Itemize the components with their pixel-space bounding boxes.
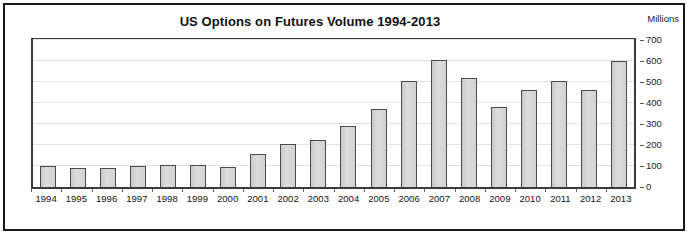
x-axis-tick-label: 2005 — [364, 193, 394, 213]
bar-2011 — [551, 81, 567, 187]
chart-title: US Options on Futures Volume 1994-2013 — [0, 14, 620, 29]
y-axis-tick — [640, 61, 644, 62]
bar-2008 — [461, 78, 477, 187]
y-axis-tick-label: 500 — [646, 77, 662, 87]
bar-slot — [394, 40, 424, 187]
x-axis-tick-label: 1996 — [92, 193, 122, 213]
bar-1995 — [70, 168, 86, 187]
bar-slot — [303, 40, 333, 187]
x-axis-tick-label: 2012 — [576, 193, 606, 213]
bar-slot — [424, 40, 454, 187]
x-axis-tick-label: 2013 — [606, 193, 636, 213]
x-axis-tick-label: 2006 — [394, 193, 424, 213]
x-axis-tick-label: 2004 — [334, 193, 364, 213]
bar-2000 — [220, 167, 236, 187]
bar-slot — [153, 40, 183, 187]
x-axis-tick-label: 2002 — [273, 193, 303, 213]
y-axis-unit-label: Millions — [647, 13, 679, 24]
bar-slot — [273, 40, 303, 187]
bar-slot — [484, 40, 514, 187]
x-axis-labels: 1994199519961997199819992000200120022003… — [31, 193, 636, 213]
y-axis-tick-label: 400 — [646, 98, 662, 108]
plot-area — [31, 38, 636, 189]
bar-2002 — [280, 144, 296, 187]
y-axis-tick — [640, 124, 644, 125]
bar-slot — [604, 40, 634, 187]
bar-slot — [213, 40, 243, 187]
bar-2007 — [431, 60, 447, 187]
bar-1999 — [190, 165, 206, 187]
x-axis-tick-label: 2008 — [455, 193, 485, 213]
y-axis-tick — [640, 166, 644, 167]
bar-slot — [33, 40, 63, 187]
y-axis-tick-label: 0 — [646, 182, 651, 192]
x-axis-tick-label: 2001 — [243, 193, 273, 213]
x-axis-tick-label: 2000 — [213, 193, 243, 213]
bar-2012 — [581, 90, 597, 187]
bar-slot — [123, 40, 153, 187]
bar-2006 — [401, 81, 417, 187]
y-axis-tick-label: 100 — [646, 161, 662, 171]
x-axis-tick-label: 2003 — [303, 193, 333, 213]
y-axis-tick — [640, 145, 644, 146]
bar-1996 — [100, 168, 116, 187]
y-axis: 0100200300400500600700 — [640, 31, 684, 197]
bar-slot — [514, 40, 544, 187]
figure-bottom-rule — [3, 229, 685, 231]
bar-1998 — [160, 165, 176, 187]
bar-slot — [574, 40, 604, 187]
bar-slot — [454, 40, 484, 187]
x-axis-tick-label: 2007 — [424, 193, 454, 213]
bar-2001 — [250, 154, 266, 187]
bar-2004 — [340, 126, 356, 187]
y-axis-tick — [640, 82, 644, 83]
bar-2005 — [371, 109, 387, 187]
y-axis-tick — [640, 187, 644, 188]
bar-2013 — [611, 61, 627, 187]
bar-slot — [93, 40, 123, 187]
x-axis-tick-label: 1999 — [182, 193, 212, 213]
x-axis-tick-label: 1998 — [152, 193, 182, 213]
y-axis-tick-label: 700 — [646, 35, 662, 45]
bar-slot — [243, 40, 273, 187]
bar-2009 — [491, 107, 507, 187]
bar-2003 — [310, 140, 326, 187]
x-axis-tick-label: 1997 — [122, 193, 152, 213]
bar-2010 — [521, 90, 537, 187]
bar-1997 — [130, 166, 146, 187]
x-axis-tick-label: 1995 — [61, 193, 91, 213]
x-axis-tick-label: 2009 — [485, 193, 515, 213]
bar-series — [33, 40, 634, 187]
y-axis-tick-label: 300 — [646, 119, 662, 129]
bar-slot — [183, 40, 213, 187]
x-axis-tick-label: 2010 — [515, 193, 545, 213]
y-axis-tick-label: 600 — [646, 56, 662, 66]
x-axis-tick-label: 2011 — [545, 193, 575, 213]
bar-slot — [364, 40, 394, 187]
chart-figure: US Options on Futures Volume 1994-2013 M… — [0, 0, 688, 234]
bar-slot — [63, 40, 93, 187]
y-axis-tick — [640, 103, 644, 104]
x-axis-tick-label: 1994 — [31, 193, 61, 213]
bar-slot — [333, 40, 363, 187]
y-axis-tick — [640, 40, 644, 41]
bar-1994 — [40, 166, 56, 187]
y-axis-tick-label: 200 — [646, 140, 662, 150]
bar-slot — [544, 40, 574, 187]
